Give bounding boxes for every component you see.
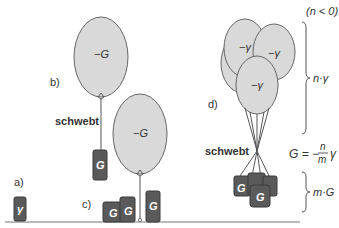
box-c3-label: G [149, 200, 158, 212]
box-d1-label: G [237, 182, 246, 194]
balloon-b-label: −G [94, 48, 109, 60]
formula-lhs: G = − [289, 147, 319, 161]
m-G-label: m·G [313, 186, 335, 198]
n-condition: (n < 0) [306, 5, 338, 17]
ground-anchor [138, 218, 141, 221]
formula-numerator: n [320, 141, 326, 152]
label-schwebt-b: schwebt [55, 115, 99, 127]
formula-denominator: m [318, 154, 326, 165]
label-a: a) [14, 176, 24, 188]
balloon-c-label: −G [133, 127, 148, 139]
brace-m-G [302, 172, 310, 212]
box-d2-label: G [256, 191, 265, 203]
formula-rhs: γ [330, 147, 337, 161]
box-c1-label: G [109, 207, 118, 219]
box-a-label: γ [17, 203, 24, 215]
balloon-d2-label: −γ [268, 47, 281, 59]
brace-n-gamma [302, 22, 310, 134]
box-c2-label: G [124, 205, 133, 217]
balloon-d3-label: −γ [251, 79, 264, 91]
label-schwebt-d: schwebt [205, 145, 249, 157]
label-c: c) [82, 198, 91, 210]
diagram-canvas: a) γ −G b) schwebt G −G c) G G G −γ −γ −… [0, 0, 339, 228]
n-gamma-label: n·γ [313, 72, 330, 84]
balloon-d1-label: −γ [239, 41, 252, 53]
label-d: d) [208, 98, 218, 110]
box-b-label: G [96, 159, 105, 171]
label-b: b) [50, 76, 60, 88]
